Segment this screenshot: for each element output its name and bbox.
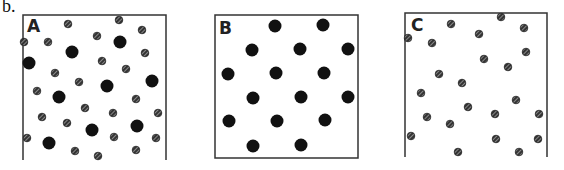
small-particle bbox=[447, 20, 455, 28]
panel-b bbox=[215, 15, 358, 158]
large-particle bbox=[319, 114, 332, 127]
small-particle bbox=[132, 146, 140, 154]
small-particle bbox=[109, 109, 117, 117]
large-particle bbox=[342, 91, 355, 104]
small-particle bbox=[428, 39, 436, 47]
small-particle bbox=[23, 134, 31, 142]
small-particle bbox=[458, 79, 466, 87]
small-particle bbox=[81, 104, 89, 112]
large-particle bbox=[247, 140, 260, 153]
large-particle bbox=[131, 120, 144, 133]
small-particle bbox=[44, 38, 52, 46]
large-particle bbox=[66, 46, 79, 59]
large-particle bbox=[246, 44, 259, 57]
large-particle bbox=[271, 115, 284, 128]
small-particle bbox=[132, 95, 140, 103]
large-particle bbox=[317, 19, 330, 32]
panel-letter-a: A bbox=[27, 16, 40, 36]
small-particle bbox=[446, 120, 454, 128]
large-particle bbox=[295, 139, 308, 152]
large-particle bbox=[270, 67, 283, 80]
small-particle bbox=[491, 110, 499, 118]
large-particle bbox=[114, 36, 127, 49]
small-particle bbox=[480, 55, 488, 63]
small-particle bbox=[93, 32, 101, 40]
small-particle bbox=[141, 49, 149, 57]
small-particle bbox=[492, 135, 500, 143]
large-particle bbox=[342, 43, 355, 56]
small-particle bbox=[520, 24, 528, 32]
large-particle bbox=[318, 67, 331, 80]
small-particle bbox=[404, 34, 412, 42]
small-particle bbox=[407, 132, 415, 140]
small-particle bbox=[33, 87, 41, 95]
small-particle bbox=[115, 16, 123, 24]
small-particle bbox=[71, 147, 79, 155]
small-particle bbox=[51, 69, 59, 77]
panel-letter-b: B bbox=[219, 18, 232, 38]
small-particle bbox=[138, 26, 146, 34]
small-particle bbox=[464, 103, 472, 111]
large-particle bbox=[53, 91, 66, 104]
small-particle bbox=[435, 70, 443, 78]
small-particle bbox=[417, 89, 425, 97]
particle-diagram bbox=[0, 0, 564, 170]
small-particle bbox=[423, 113, 431, 121]
small-particle bbox=[122, 65, 130, 73]
small-particle bbox=[535, 110, 543, 118]
large-particle bbox=[294, 43, 307, 56]
small-particle bbox=[522, 48, 530, 56]
small-particle bbox=[154, 109, 162, 117]
large-particle bbox=[295, 91, 308, 104]
small-particle bbox=[504, 63, 512, 71]
panel-a bbox=[20, 15, 166, 160]
small-particle bbox=[94, 152, 102, 160]
small-particle bbox=[75, 78, 83, 86]
small-particle bbox=[110, 133, 118, 141]
small-particle bbox=[475, 30, 483, 38]
small-particle bbox=[64, 20, 72, 28]
large-particle bbox=[247, 92, 260, 105]
large-particle bbox=[146, 75, 159, 88]
container-border bbox=[215, 15, 358, 158]
large-particle bbox=[101, 80, 114, 93]
large-particle bbox=[269, 20, 282, 33]
panel-c bbox=[404, 13, 547, 157]
panel-letter-c: C bbox=[411, 15, 423, 35]
small-particle bbox=[497, 13, 505, 21]
small-particle bbox=[515, 148, 523, 156]
large-particle bbox=[23, 57, 36, 70]
small-particle bbox=[38, 113, 46, 121]
large-particle bbox=[86, 124, 99, 137]
small-particle bbox=[152, 134, 160, 142]
large-particle bbox=[43, 137, 56, 150]
small-particle bbox=[454, 148, 462, 156]
large-particle bbox=[222, 68, 235, 81]
small-particle bbox=[98, 57, 106, 65]
small-particle bbox=[534, 135, 542, 143]
small-particle bbox=[512, 96, 520, 104]
large-particle bbox=[223, 115, 236, 128]
small-particle bbox=[20, 38, 28, 46]
small-particle bbox=[63, 119, 71, 127]
